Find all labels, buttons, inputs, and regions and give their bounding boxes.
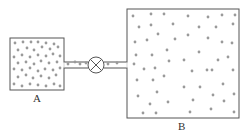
gas-molecule — [232, 69, 235, 72]
gas-molecule — [56, 61, 59, 64]
gas-molecule — [133, 63, 136, 66]
gas-molecule — [37, 84, 40, 87]
gas-molecule — [221, 41, 224, 44]
gas-molecule — [166, 49, 169, 52]
gas-molecule — [227, 56, 230, 59]
gas-molecule — [49, 48, 52, 51]
gas-molecule — [172, 23, 175, 26]
gas-molecule — [210, 108, 213, 111]
gas-molecule — [191, 70, 194, 73]
gas-molecule — [26, 47, 29, 50]
gas-molecule — [183, 59, 186, 62]
gas-molecule — [138, 26, 141, 29]
gas-molecule — [199, 86, 202, 89]
gas-molecule — [143, 68, 146, 71]
gas-molecule — [233, 93, 236, 96]
gas-molecule — [44, 68, 47, 71]
gas-molecule — [187, 15, 190, 18]
gas-molecule — [53, 83, 56, 86]
gas-molecule — [40, 75, 43, 78]
gas-molecule — [57, 46, 60, 49]
gas-molecule — [223, 100, 226, 103]
container-b — [127, 9, 239, 118]
gas-molecule — [29, 67, 32, 70]
gas-molecule — [52, 53, 55, 56]
gas-molecule — [45, 55, 48, 58]
gas-molecule — [136, 79, 139, 82]
gas-molecule — [13, 56, 16, 59]
gas-molecule — [222, 83, 225, 86]
gas-molecule — [13, 83, 16, 86]
gas-molecule — [48, 77, 51, 80]
gas-molecule — [207, 37, 210, 40]
gas-molecule — [116, 62, 119, 65]
gas-molecule — [132, 15, 135, 18]
gas-molecule — [212, 94, 215, 97]
gas-molecule — [198, 51, 201, 54]
gas-molecule — [107, 63, 110, 66]
gas-molecule — [37, 41, 40, 44]
gas-molecule — [187, 34, 190, 37]
gas-molecule — [59, 67, 62, 70]
gas-molecule — [156, 91, 159, 94]
gas-molecule — [183, 86, 186, 89]
gas-molecule — [163, 13, 166, 16]
gas-molecule — [146, 39, 149, 42]
gas-molecule — [198, 26, 201, 29]
gas-molecule — [137, 95, 140, 98]
gas-molecule — [192, 99, 195, 102]
gas-molecule — [48, 62, 51, 65]
gas-molecule — [232, 23, 235, 26]
gas-molecule — [155, 112, 158, 115]
gas-molecule — [215, 26, 218, 29]
gas-molecule — [29, 83, 32, 86]
gas-molecule — [74, 61, 77, 64]
gas-molecule — [231, 42, 234, 45]
gas-molecule — [149, 103, 152, 106]
gas-molecule — [29, 56, 32, 59]
gas-molecule — [217, 59, 220, 62]
gas-molecule — [134, 41, 137, 44]
gas-molecule — [59, 55, 62, 58]
gas-molecule — [59, 85, 62, 88]
gas-molecule — [135, 54, 138, 57]
gas-molecule — [45, 85, 48, 88]
gas-molecule — [52, 69, 55, 72]
gas-molecule — [45, 42, 48, 45]
gas-molecule — [150, 13, 153, 16]
gas-molecule — [152, 79, 155, 82]
gas-molecule — [167, 101, 170, 104]
container-b-label: B — [178, 120, 185, 132]
gas-molecule — [41, 46, 44, 49]
gas-molecule — [150, 24, 153, 27]
gas-molecule — [14, 42, 17, 45]
gas-molecule — [151, 54, 154, 57]
gas-molecule — [32, 77, 35, 80]
gas-molecule — [53, 43, 56, 46]
gas-molecule — [168, 60, 171, 63]
gas-molecule — [33, 49, 36, 52]
gas-molecule — [17, 76, 20, 79]
gas-molecule — [207, 16, 210, 19]
gas-molecule — [154, 67, 157, 70]
gas-molecule — [55, 74, 58, 77]
gas-molecule — [30, 41, 33, 44]
gas-molecule — [206, 69, 209, 72]
gas-molecule — [85, 62, 88, 65]
gas-molecule — [40, 60, 43, 63]
gas-expansion-diagram — [0, 0, 247, 134]
gas-molecule — [22, 41, 25, 44]
gas-molecule — [25, 61, 28, 64]
gas-molecule — [174, 38, 177, 41]
gas-molecule — [221, 14, 224, 17]
gas-molecule — [13, 68, 16, 71]
gas-molecule — [33, 63, 36, 66]
gas-molecule — [37, 54, 40, 57]
gas-molecule — [17, 49, 20, 52]
gas-molecule — [21, 54, 24, 57]
container-a-label: A — [33, 92, 41, 104]
gas-molecule — [25, 74, 28, 77]
gas-molecule — [17, 62, 20, 65]
gas-molecule — [79, 63, 82, 66]
gas-molecule — [67, 63, 70, 66]
